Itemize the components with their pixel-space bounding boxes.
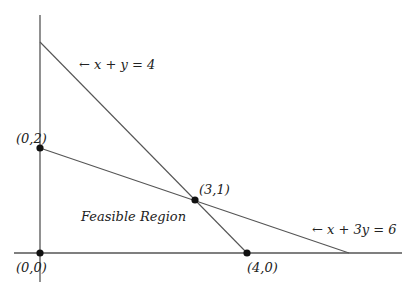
constraint-label-1: ← x + y = 4 — [79, 57, 155, 72]
point-label-4-0: (4,0) — [247, 260, 278, 275]
region-label: Feasible Region — [80, 209, 186, 224]
point-label-0-0: (0,0) — [16, 260, 47, 275]
point-4-0 — [243, 249, 250, 256]
point-label-0-2: (0,2) — [16, 131, 47, 146]
constraint-label-2: ← x + 3y = 6 — [312, 222, 397, 237]
point-label-3-1: (3,1) — [199, 182, 230, 197]
feasible-region-diagram: ← x + y = 4 ← x + 3y = 6 (0,2) (3,1) (0,… — [0, 0, 414, 294]
point-0-0 — [36, 249, 43, 256]
point-3-1 — [191, 196, 198, 203]
